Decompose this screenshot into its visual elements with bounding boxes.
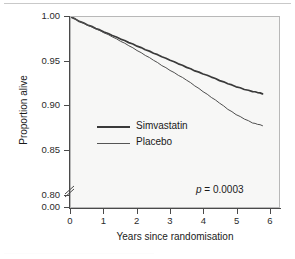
y-axis-break-icon	[63, 183, 77, 199]
y-tick-mark	[64, 150, 69, 151]
figure-bottom-divider	[4, 253, 154, 254]
y-tick-mark	[64, 105, 69, 106]
legend-item-simvastatin: Simvastatin	[97, 119, 217, 135]
x-tick-label: 4	[195, 216, 211, 226]
legend-label-simvastatin: Simvastatin	[136, 120, 188, 132]
x-tick-mark	[103, 209, 104, 214]
y-tick-mark	[64, 16, 69, 17]
survival-curves	[71, 17, 279, 207]
series-line-placebo	[71, 17, 262, 126]
legend-swatch-placebo	[97, 143, 130, 144]
y-tick-label: 1.00	[26, 11, 60, 21]
x-tick-label: 5	[229, 216, 245, 226]
x-axis-label: Years since randomisation	[70, 231, 280, 242]
legend-swatch-simvastatin	[97, 126, 130, 128]
x-tick-mark	[137, 209, 138, 214]
series-line-simvastatin	[71, 17, 262, 94]
y-tick-mark	[64, 207, 69, 208]
x-tick-mark	[237, 209, 238, 214]
x-tick-label: 1	[95, 216, 111, 226]
x-axis-line	[69, 208, 281, 209]
legend-label-placebo: Placebo	[136, 136, 172, 148]
x-tick-label: 2	[129, 216, 145, 226]
p-value-text: = 0.0003	[202, 184, 244, 195]
legend: Simvastatin Placebo	[97, 119, 217, 151]
y-tick-label: 0.85	[26, 145, 60, 155]
y-tick-label: 0.80	[26, 190, 60, 200]
y-tick-mark	[64, 61, 69, 62]
x-tick-label: 0	[62, 216, 78, 226]
x-tick-mark	[170, 209, 171, 214]
x-tick-label: 3	[162, 216, 178, 226]
y-tick-label: 0.00	[26, 202, 60, 212]
y-tick-label: 0.90	[26, 100, 60, 110]
x-tick-mark	[203, 209, 204, 214]
x-tick-mark	[70, 209, 71, 214]
y-axis-label: Proportion alive	[19, 45, 29, 175]
plot-area	[70, 16, 280, 208]
y-axis-line	[69, 16, 70, 209]
x-tick-mark	[270, 209, 271, 214]
figure-top-divider	[4, 3, 291, 4]
p-value-annotation: p = 0.0003	[196, 184, 244, 195]
legend-item-placebo: Placebo	[97, 135, 217, 151]
kaplan-meier-survival-figure: 1.000.950.900.850.800.00 0123456 Proport…	[0, 0, 295, 259]
x-tick-label: 6	[262, 216, 278, 226]
y-tick-label: 0.95	[26, 56, 60, 66]
